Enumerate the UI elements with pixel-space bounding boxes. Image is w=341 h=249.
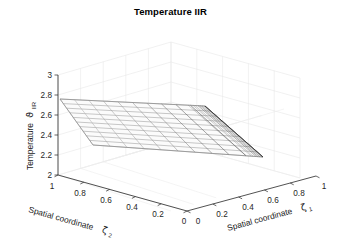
zeta2-tick-label: 0.8 xyxy=(74,189,86,198)
z-tick-label: 2.2 xyxy=(41,151,53,160)
surface-plot-svg: 3 2.8 2.6 2.4 2.2 2 1 0.8 0.6 0.4 0.2 0 xyxy=(0,0,341,249)
zeta1-tick-label: 0.8 xyxy=(293,189,305,198)
z-axis-label-subscript: IIR xyxy=(31,101,37,109)
zeta1-tick-label: 1 xyxy=(322,182,327,191)
svg-text:Temperature ϑ: Temperature ϑ IIR xyxy=(24,101,37,170)
zeta2-axis-label-subscript: 2 xyxy=(108,232,113,239)
zeta1-tick-label: 0 xyxy=(196,217,201,226)
zeta1-tick-label: 0.6 xyxy=(267,196,279,205)
zeta2-tick-label: 0 xyxy=(182,217,187,226)
zeta1-tick-label: 0.4 xyxy=(242,203,254,212)
zeta1-axis-label-symbol: ζ xyxy=(299,201,307,213)
zeta1-axis-label-text: Spatial coordinate xyxy=(226,206,294,233)
floor-grid-front xyxy=(58,142,300,211)
z-axis-label-text: Temperature xyxy=(25,123,35,170)
z-axis-label-symbol: ϑ xyxy=(24,112,35,118)
z-tick-label: 3 xyxy=(47,71,52,80)
figure-canvas: Temperature IIR xyxy=(0,0,341,249)
zeta1-axis-label-subscript: 1 xyxy=(308,206,313,213)
svg-text:Spatial coordinate ζ: Spatial coordinate ζ 2 xyxy=(27,203,115,239)
zeta2-axis-label-text: Spatial coordinate xyxy=(27,204,95,232)
zeta2-tick-label: 0.6 xyxy=(100,196,112,205)
mesh-surface xyxy=(60,99,263,157)
zeta1-tick-label: 0.2 xyxy=(216,210,228,219)
z-tick-label: 2.6 xyxy=(41,111,53,120)
z-tick-label: 2.4 xyxy=(41,131,53,140)
zeta2-tick-label: 0.4 xyxy=(126,203,138,212)
z-axis-ticks xyxy=(55,75,59,175)
z-tick-label: 2.8 xyxy=(41,91,53,100)
z-tick-label: 2 xyxy=(47,171,52,180)
zeta2-tick-label: 0.2 xyxy=(152,210,164,219)
zeta2-tick-label: 1 xyxy=(50,182,55,191)
zeta2-axis-label-symbol: ζ xyxy=(101,224,109,236)
z-axis-tick-labels: 3 2.8 2.6 2.4 2.2 2 xyxy=(41,71,53,180)
z-axis-label: Temperature ϑ IIR xyxy=(24,101,37,170)
zeta2-axis-label: Spatial coordinate ζ 2 xyxy=(27,203,115,239)
